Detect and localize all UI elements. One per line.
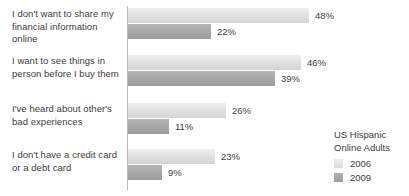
category-label-2: I want to see things in person before I …: [12, 55, 124, 80]
bar-4-2009[interactable]: [128, 165, 162, 180]
category-label-4-line1: I don't have a credit card: [12, 149, 124, 162]
category-label-2-line1: I want to see things in: [12, 55, 124, 68]
bar-1-2006[interactable]: [128, 8, 309, 23]
category-label-1-line1: I don't want to share my: [12, 8, 124, 21]
bar-3-2006[interactable]: [128, 103, 226, 118]
bar-value-2-2006: 46%: [307, 56, 326, 69]
category-label-2-line2: person before I buy them: [12, 68, 124, 81]
category-label-3-line2: bad experiences: [12, 116, 124, 129]
legend-label-2006: 2006: [350, 158, 371, 169]
legend-label-2009: 2009: [350, 172, 371, 183]
bar-2-2006[interactable]: [128, 55, 301, 70]
category-label-4-line2: or a debt card: [12, 162, 124, 175]
category-label-1: I don't want to share my financial infor…: [12, 8, 124, 46]
bar-4-2006[interactable]: [128, 149, 215, 164]
legend-title-line2: Online Adults: [334, 142, 409, 155]
chart-legend: US Hispanic Online Adults 2006 2009: [334, 129, 409, 183]
bar-value-3-2009: 11%: [175, 120, 193, 133]
bar-value-4-2006: 23%: [221, 150, 240, 163]
legend-title-line1: US Hispanic: [334, 129, 409, 142]
legend-item-2006[interactable]: 2006: [334, 158, 409, 169]
category-group-1: I don't want to share my financial infor…: [0, 8, 409, 52]
bar-value-4-2009: 9%: [168, 166, 182, 179]
category-label-1-line2: financial information online: [12, 21, 124, 46]
bar-value-3-2006: 26%: [232, 104, 251, 117]
bar-value-1-2009: 22%: [217, 25, 236, 38]
legend-swatch-2009-icon: [334, 173, 343, 182]
legend-item-2009[interactable]: 2009: [334, 172, 409, 183]
bar-chart: I don't want to share my financial infor…: [0, 0, 409, 196]
category-label-3-line1: I've heard about other's: [12, 103, 124, 116]
bar-value-2-2009: 39%: [281, 72, 300, 85]
category-label-4: I don't have a credit card or a debt car…: [12, 149, 124, 174]
bar-value-1-2006: 48%: [315, 9, 334, 22]
bar-3-2009[interactable]: [128, 119, 169, 134]
bar-1-2009[interactable]: [128, 24, 211, 39]
category-label-3: I've heard about other's bad experiences: [12, 103, 124, 128]
bar-2-2009[interactable]: [128, 71, 275, 86]
legend-title: US Hispanic Online Adults: [334, 129, 409, 154]
legend-swatch-2006-icon: [334, 159, 343, 168]
category-group-2: I want to see things in person before I …: [0, 55, 409, 99]
